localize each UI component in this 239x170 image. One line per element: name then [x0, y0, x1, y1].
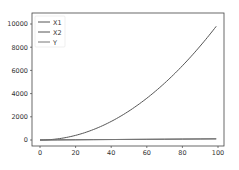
x-tick-label: 80 [178, 149, 186, 157]
y-axis: 0200040006000800010000 [7, 20, 32, 144]
line-chart: 0200040006000800010000 020406080100 X1 X… [0, 0, 239, 170]
y-tick-label: 2000 [11, 113, 28, 121]
legend-label-y: Y [52, 39, 57, 47]
legend-label-x1: X1 [53, 19, 62, 27]
legend-label-x2: X2 [53, 29, 62, 37]
y-tick-label: 4000 [11, 90, 28, 98]
x-tick-label: 40 [107, 149, 115, 157]
x-tick-label: 60 [143, 149, 151, 157]
y-tick-label: 0 [24, 136, 28, 144]
y-tick-label: 8000 [11, 44, 28, 52]
x-tick-label: 20 [71, 149, 79, 157]
x-tick-label: 100 [212, 149, 224, 157]
y-tick-label: 10000 [7, 20, 28, 28]
x-tick-label: 0 [38, 149, 42, 157]
x-axis: 020406080100 [38, 146, 224, 157]
legend: X1 X2 Y [35, 16, 65, 47]
y-tick-label: 6000 [11, 67, 28, 75]
